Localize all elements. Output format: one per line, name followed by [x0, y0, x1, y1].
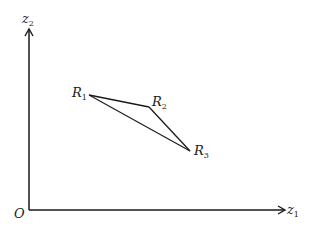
edge-r1-r3: [89, 95, 190, 151]
point-label-r1: R1: [71, 85, 87, 102]
diagram-canvas: z2 z1 O R1 R2 R3: [0, 0, 313, 226]
y-axis-label: z2: [21, 11, 34, 28]
point-label-r3: R3: [193, 143, 209, 160]
edge-r1-r2: [89, 95, 149, 107]
x-axis-label: z1: [286, 202, 299, 219]
edge-r2-r3: [149, 107, 190, 151]
point-label-r2: R2: [151, 94, 167, 111]
origin-label: O: [14, 206, 25, 221]
